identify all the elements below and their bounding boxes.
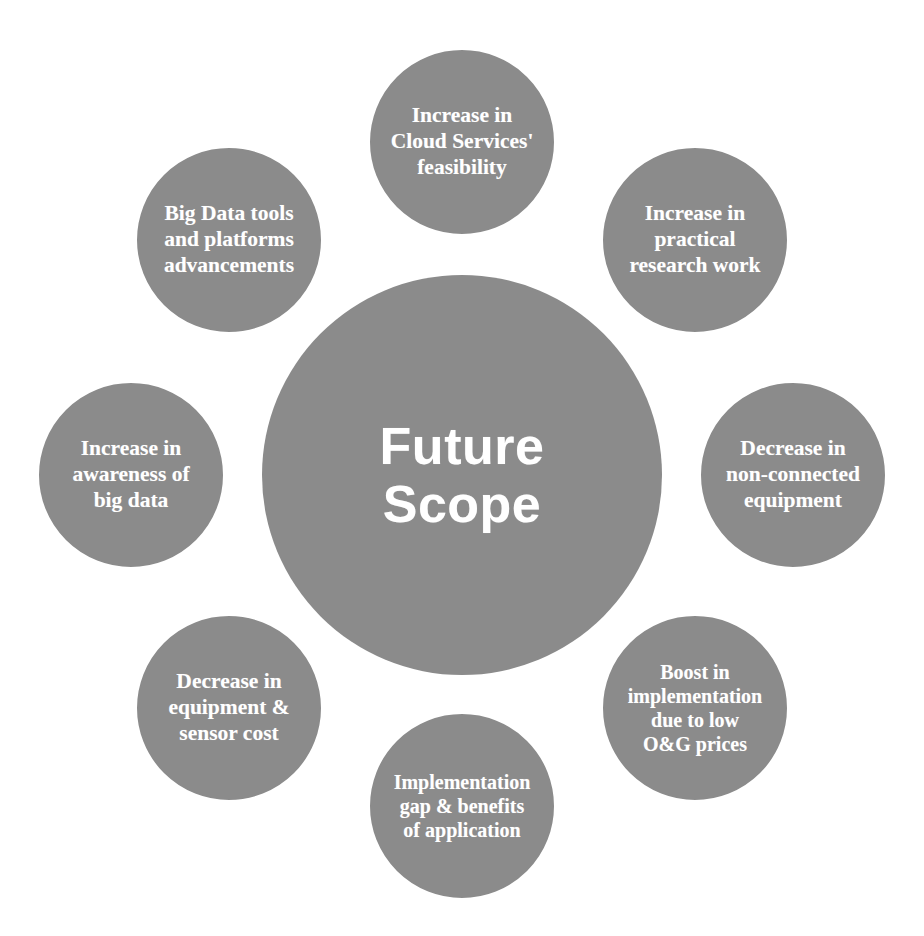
node-implementation-gap-benefits[interactable]: Implementation gap & benefits of applica… xyxy=(364,708,560,904)
node-label-awareness-of-big-data: Increase in awareness of big data xyxy=(66,436,195,513)
node-practical-research-work[interactable]: Increase in practical research work xyxy=(597,142,793,338)
node-label-big-data-tools-platforms: Big Data tools and platforms advancement… xyxy=(158,201,300,278)
node-label-practical-research-work: Increase in practical research work xyxy=(623,201,766,278)
node-label-low-og-prices-boost: Boost in implementation due to low O&G p… xyxy=(622,660,768,756)
center-node-future-scope[interactable]: Future Scope xyxy=(262,275,662,675)
center-node-label: Future Scope xyxy=(380,417,545,533)
node-awareness-of-big-data[interactable]: Increase in awareness of big data xyxy=(33,377,229,573)
node-label-non-connected-equipment: Decrease in non-connected equipment xyxy=(720,436,866,513)
node-label-cloud-services-feasibility: Increase in Cloud Services' feasibility xyxy=(385,103,540,180)
future-scope-diagram: Future Scope Increase in Cloud Services'… xyxy=(0,0,924,936)
node-low-og-prices-boost[interactable]: Boost in implementation due to low O&G p… xyxy=(597,610,793,806)
node-equipment-sensor-cost[interactable]: Decrease in equipment & sensor cost xyxy=(131,610,327,806)
node-non-connected-equipment[interactable]: Decrease in non-connected equipment xyxy=(695,377,891,573)
node-cloud-services-feasibility[interactable]: Increase in Cloud Services' feasibility xyxy=(364,44,560,240)
node-label-equipment-sensor-cost: Decrease in equipment & sensor cost xyxy=(162,669,295,746)
node-label-implementation-gap-benefits: Implementation gap & benefits of applica… xyxy=(388,770,537,842)
node-big-data-tools-platforms[interactable]: Big Data tools and platforms advancement… xyxy=(131,142,327,338)
